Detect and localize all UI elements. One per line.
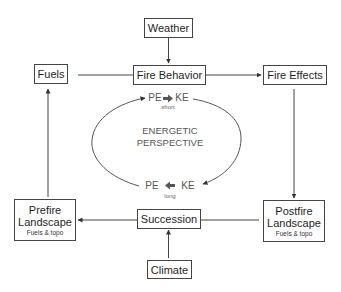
node-fire-behavior-label: Fire Behavior <box>137 69 202 81</box>
node-weather-label: Weather <box>148 22 189 34</box>
top-block-arrow <box>163 95 173 103</box>
node-climate: Climate <box>147 260 192 279</box>
cycle-top-pe: PE <box>147 92 163 103</box>
node-fire-effects-label: Fire Effects <box>267 69 322 81</box>
node-weather: Weather <box>144 18 193 38</box>
node-succession-label: Succession <box>141 213 197 225</box>
node-fuels: Fuels <box>34 64 68 84</box>
node-fire-behavior: Fire Behavior <box>133 65 206 85</box>
bottom-block-arrow <box>165 182 175 190</box>
node-postfire-sub: Fuels & topo <box>276 229 313 238</box>
cycle-bottom-caption: long <box>155 193 185 199</box>
node-prefire-label-line2: Landscape <box>18 216 72 228</box>
cycle-top-ke: KE <box>174 92 190 103</box>
node-fuels-label: Fuels <box>38 68 65 80</box>
cycle-top-caption: short <box>153 104 183 110</box>
cycle-bottom-ke: KE <box>180 180 196 191</box>
node-prefire-sub: Fuels & topo <box>27 228 64 237</box>
node-climate-label: Climate <box>151 264 188 276</box>
node-postfire-label-line2: Landscape <box>267 217 321 229</box>
node-succession: Succession <box>137 209 201 229</box>
cycle-bottom-pe: PE <box>144 180 160 191</box>
cycle-title-line1: ENERGETIC <box>120 125 220 136</box>
node-fire-effects: Fire Effects <box>263 65 327 85</box>
node-postfire-landscape: Postfire Landscape Fuels & topo <box>263 200 325 242</box>
cycle-title-line2: PERSPECTIVE <box>120 137 220 148</box>
node-prefire-landscape: Prefire Landscape Fuels & topo <box>14 199 76 241</box>
node-prefire-label-line1: Prefire <box>29 204 61 216</box>
node-postfire-label-line1: Postfire <box>275 205 312 217</box>
